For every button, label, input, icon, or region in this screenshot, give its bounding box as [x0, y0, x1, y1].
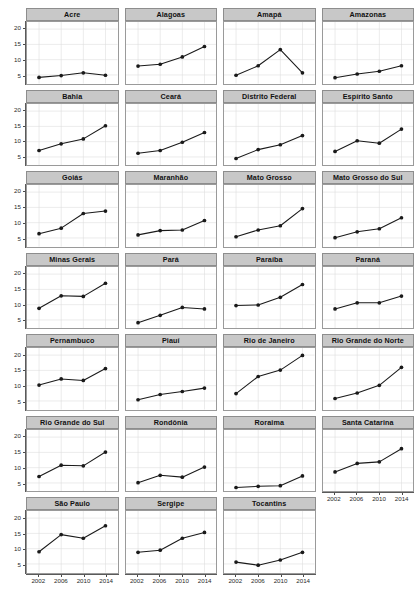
facet-plot-area: [322, 266, 415, 330]
facet-plot-area: [223, 347, 316, 411]
facet-plot-area: [26, 184, 119, 248]
facet-panel-bahia: Bahia: [26, 90, 119, 167]
x-axis-tick-label: 2002: [224, 578, 246, 584]
x-axis-line: [26, 574, 119, 575]
y-axis-tick-label: 20: [8, 107, 21, 113]
x-axis-tick-label: 2014: [292, 578, 314, 584]
y-axis-line: [25, 184, 26, 248]
facet-strip-label: Pará: [125, 253, 218, 266]
facet-strip-label: Tocantins: [223, 497, 316, 510]
y-axis-tick-label: 15: [8, 531, 21, 537]
facet-plot-area: [125, 429, 218, 493]
x-axis-tick-label: 2010: [73, 578, 95, 584]
facet-panel-rondônia: Rondônia: [125, 416, 218, 493]
facet-panel-maranhão: Maranhão: [125, 171, 218, 248]
facet-panel-piauí: Piauí: [125, 334, 218, 411]
facet-strip-label: Espírito Santo: [322, 90, 415, 103]
facet-strip-label: Amapá: [223, 8, 316, 21]
facet-strip-label: Mato Grosso do Sul: [322, 171, 415, 184]
facet-panel-mato-grosso: Mato Grosso: [223, 171, 316, 248]
facet-strip-label: Rondônia: [125, 416, 218, 429]
facet-panel-pernambuco: Pernambuco: [26, 334, 119, 411]
y-axis-tick-label: 10: [8, 546, 21, 552]
facet-panel-paraná: Paraná: [322, 253, 415, 330]
facet-strip-label: Rio Grande do Norte: [322, 334, 415, 347]
x-axis-tick-label: 2006: [345, 496, 367, 502]
facet-strip-label: Rio de Janeiro: [223, 334, 316, 347]
facet-panel-mato-grosso-do-sul: Mato Grosso do Sul: [322, 171, 415, 248]
y-axis-tick-label: 15: [8, 123, 21, 129]
y-axis-tick-label: 10: [8, 57, 21, 63]
facet-panel-pará: Pará: [125, 253, 218, 330]
facet-panel-distrito-federal: Distrito Federal: [223, 90, 316, 167]
y-axis-tick-label: 10: [8, 138, 21, 144]
x-axis-tick-label: 2010: [171, 578, 193, 584]
x-axis-tick-label: 2010: [368, 496, 390, 502]
facet-panel-amapá: Amapá: [223, 8, 316, 85]
facet-panel-goiás: Goiás: [26, 171, 119, 248]
facet-plot-area: [26, 510, 119, 574]
facet-panel-ceará: Ceará: [125, 90, 218, 167]
facet-plot-area: [322, 347, 415, 411]
x-axis-tick-label: 2006: [148, 578, 170, 584]
facet-plot-area: [26, 21, 119, 85]
facet-strip-label: Rio Grande do Sul: [26, 416, 119, 429]
x-axis-tick-label: 2002: [323, 496, 345, 502]
y-axis-tick-label: 10: [8, 302, 21, 308]
facet-strip-label: Piauí: [125, 334, 218, 347]
facet-panel-são-paulo: São Paulo: [26, 497, 119, 574]
y-axis-tick-label: 15: [8, 286, 21, 292]
facet-panel-roraima: Roraima: [223, 416, 316, 493]
facet-plot-area: [223, 266, 316, 330]
facet-plot-area: [223, 184, 316, 248]
y-axis-tick-label: 20: [8, 25, 21, 31]
facet-strip-label: Paraná: [322, 253, 415, 266]
facet-strip-label: Minas Gerais: [26, 253, 119, 266]
facet-plot-area: [322, 184, 415, 248]
facet-strip-label: São Paulo: [26, 497, 119, 510]
y-axis-line: [25, 347, 26, 411]
facet-plot-area: [322, 429, 415, 493]
facet-panel-tocantins: Tocantins: [223, 497, 316, 574]
facet-plot-area: [223, 103, 316, 167]
facet-strip-label: Goiás: [26, 171, 119, 184]
y-axis-tick-label: 10: [8, 220, 21, 226]
facet-plot-area: [223, 21, 316, 85]
y-axis-tick-label: 5: [8, 399, 21, 405]
facet-plot-area: [125, 510, 218, 574]
facet-plot-area: [125, 266, 218, 330]
facet-panel-amazonas: Amazonas: [322, 8, 415, 85]
facet-strip-label: Roraima: [223, 416, 316, 429]
facet-strip-label: Alagoas: [125, 8, 218, 21]
y-axis-tick-label: 20: [8, 515, 21, 521]
facet-plot-area: [26, 429, 119, 493]
x-axis-tick-label: 2002: [126, 578, 148, 584]
y-axis-tick-label: 20: [8, 352, 21, 358]
facet-strip-label: Amazonas: [322, 8, 415, 21]
y-axis-tick-label: 10: [8, 383, 21, 389]
facet-plot-area: [26, 103, 119, 167]
facet-plot-area: [125, 103, 218, 167]
y-axis-tick-label: 20: [8, 188, 21, 194]
facet-grid: Acre5101520AlagoasAmapáAmazonasBahia5101…: [0, 0, 418, 592]
x-axis-line: [322, 492, 415, 493]
facet-strip-label: Ceará: [125, 90, 218, 103]
y-axis-tick-label: 20: [8, 433, 21, 439]
x-axis-tick-label: 2006: [50, 578, 72, 584]
facet-panel-paraíba: Paraíba: [223, 253, 316, 330]
facet-panel-rio-de-janeiro: Rio de Janeiro: [223, 334, 316, 411]
y-axis-tick-label: 15: [8, 449, 21, 455]
y-axis-tick-label: 15: [8, 367, 21, 373]
y-axis-line: [25, 21, 26, 85]
x-axis-tick-label: 2014: [95, 578, 117, 584]
facet-plot-area: [223, 510, 316, 574]
facet-panel-santa-catarina: Santa Catarina: [322, 416, 415, 493]
facet-strip-label: Acre: [26, 8, 119, 21]
facet-plot-area: [322, 21, 415, 85]
y-axis-tick-label: 5: [8, 154, 21, 160]
y-axis-tick-label: 5: [8, 481, 21, 487]
x-axis-tick-label: 2006: [247, 578, 269, 584]
x-axis-tick-label: 2014: [194, 578, 216, 584]
facet-plot-area: [125, 347, 218, 411]
facet-plot-area: [26, 347, 119, 411]
